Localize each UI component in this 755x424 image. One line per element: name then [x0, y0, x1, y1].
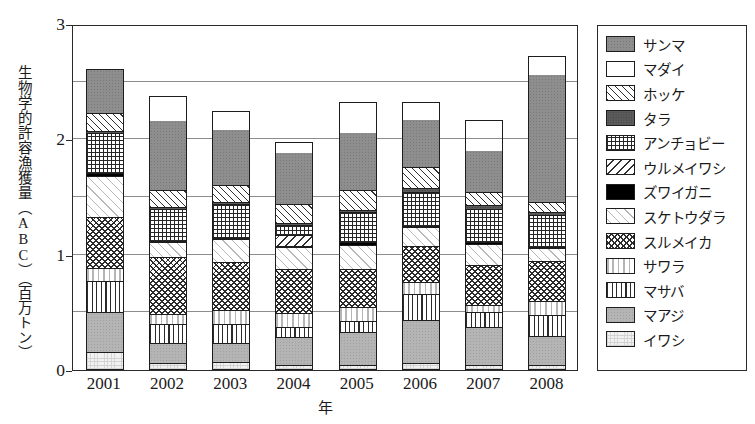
bar-segment — [529, 262, 565, 302]
bar-segment — [529, 302, 565, 316]
bar-segment — [213, 130, 249, 185]
bar-segment — [466, 266, 502, 305]
legend-label: サンマ — [643, 34, 684, 55]
bar-2006 — [402, 102, 440, 370]
bar-2002 — [149, 96, 187, 370]
bar-2001 — [86, 69, 124, 370]
legend-swatch — [606, 307, 635, 323]
bar-segment — [150, 364, 186, 369]
bar-segment — [529, 203, 565, 213]
bar-segment — [529, 249, 565, 262]
legend-item: スケトウダラ — [606, 204, 746, 229]
bar-segment — [87, 353, 123, 369]
y-tick-label: 3 — [56, 16, 65, 34]
bar-segment — [87, 218, 123, 270]
legend-label: イワシ — [643, 329, 684, 350]
legend-swatch — [606, 208, 635, 224]
bar-segment — [340, 308, 376, 322]
bar-segment — [340, 191, 376, 211]
bar-segment — [150, 191, 186, 207]
legend-item: タラ — [606, 106, 746, 131]
bar-segment — [403, 120, 439, 168]
bar-segment — [213, 263, 249, 311]
legend-swatch — [606, 159, 635, 175]
bar-segment — [403, 364, 439, 369]
y-tick-label: 0 — [56, 362, 65, 380]
legend-label: マサバ — [643, 280, 683, 301]
legend-swatch — [606, 85, 635, 101]
bar-segment — [340, 366, 376, 369]
bar-segment — [87, 282, 123, 313]
y-tick-label: 1 — [56, 247, 65, 265]
bar-segment — [529, 316, 565, 337]
legend: サンママダイホッケタラアンチョビーウルメイワシズワイガニスケトウダラスルメイカサ… — [597, 25, 747, 371]
legend-label: マアジ — [643, 304, 683, 325]
bar-segment — [340, 246, 376, 270]
bar-2008 — [528, 56, 566, 370]
bar-segment — [87, 269, 123, 282]
bar-segment — [87, 70, 123, 114]
y-tick-mark — [66, 371, 72, 372]
legend-item: マダイ — [606, 57, 746, 82]
x-tick-label: 2002 — [150, 374, 184, 394]
x-tick-label: 2003 — [213, 374, 247, 394]
legend-item: サンマ — [606, 32, 746, 57]
bar-segment — [276, 338, 312, 366]
bar-segment — [403, 283, 439, 296]
legend-item: マサバ — [606, 278, 746, 303]
bar-segment — [87, 114, 123, 132]
bar-segment — [529, 337, 565, 366]
bar-segment — [150, 258, 186, 315]
legend-label: ウルメイワシ — [643, 157, 726, 178]
bar-segment — [87, 177, 123, 218]
bar-segment — [150, 121, 186, 191]
legend-label: ズワイガニ — [643, 181, 712, 202]
bar-segment — [213, 205, 249, 238]
bar-segment — [466, 306, 502, 313]
legend-swatch — [606, 258, 635, 274]
bar-segment — [403, 193, 439, 228]
x-axis-ticks: 20012002200320042005200620072008 — [72, 374, 578, 398]
legend-label: ホッケ — [643, 83, 684, 104]
bar-segment — [276, 205, 312, 223]
legend-swatch — [606, 36, 635, 52]
bar-segment — [213, 311, 249, 325]
bar-2004 — [275, 142, 313, 370]
bar-segment — [466, 366, 502, 369]
bar-segment — [529, 366, 565, 369]
x-tick-label: 2004 — [276, 374, 310, 394]
legend-item: アンチョビー — [606, 130, 746, 155]
bar-segment — [150, 243, 186, 258]
legend-item: ズワイガニ — [606, 180, 746, 205]
legend-item: マアジ — [606, 303, 746, 328]
bar-segment — [466, 210, 502, 243]
bar-segment — [340, 133, 376, 192]
bar-segment — [276, 153, 312, 205]
bar-segment — [87, 313, 123, 353]
x-tick-label: 2001 — [87, 374, 121, 394]
x-tick-label: 2007 — [466, 374, 500, 394]
legend-swatch — [606, 331, 635, 347]
y-tick-label: 2 — [56, 132, 65, 150]
legend-label: スケトウダラ — [643, 206, 726, 227]
bar-segment — [340, 270, 376, 308]
bar-segment — [466, 313, 502, 328]
x-axis-title: 年 — [72, 396, 578, 417]
bar-segment — [213, 325, 249, 343]
bar-segment — [340, 213, 376, 243]
bar-segment — [87, 134, 123, 174]
x-tick-label: 2006 — [403, 374, 437, 394]
legend-swatch — [606, 184, 635, 200]
legend-swatch — [606, 110, 635, 126]
bar-segment — [276, 236, 312, 246]
bar-segment — [276, 328, 312, 338]
legend-item: サワラ — [606, 253, 746, 278]
legend-swatch — [606, 135, 635, 151]
bar-segment — [213, 363, 249, 369]
legend-swatch — [606, 233, 635, 249]
bar-segment — [466, 328, 502, 366]
bar-segment — [276, 366, 312, 369]
bar-segment — [466, 193, 502, 207]
bar-segment — [529, 216, 565, 248]
legend-label: スルメイカ — [643, 231, 712, 252]
